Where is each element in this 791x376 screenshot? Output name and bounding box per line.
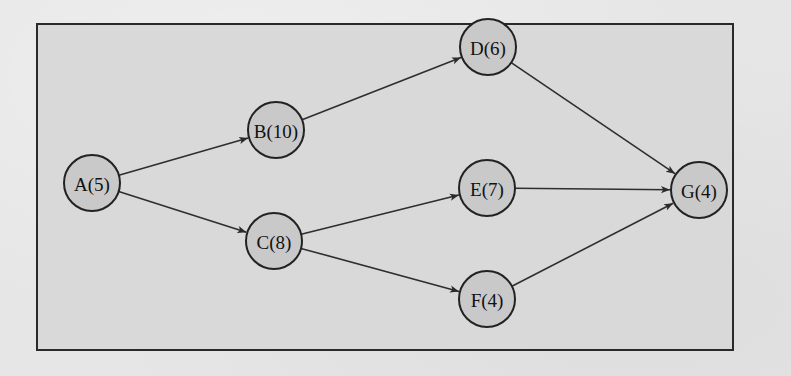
node-label: D(6) xyxy=(470,38,506,60)
activity-network-diagram: A(5)B(10)C(8)D(6)E(7)F(4)G(4) xyxy=(0,0,791,376)
node-g: G(4) xyxy=(671,162,727,218)
diagram-frame xyxy=(37,24,733,350)
node-label: F(4) xyxy=(471,290,504,312)
node-label: E(7) xyxy=(470,179,504,201)
node-e: E(7) xyxy=(459,160,515,216)
node-label: C(8) xyxy=(257,232,292,254)
scanned-page: A(5)B(10)C(8)D(6)E(7)F(4)G(4) xyxy=(0,0,791,376)
node-label: B(10) xyxy=(254,121,298,143)
node-d: D(6) xyxy=(460,19,516,75)
node-label: G(4) xyxy=(681,181,717,203)
node-label: A(5) xyxy=(74,174,110,196)
node-a: A(5) xyxy=(64,155,120,211)
node-f: F(4) xyxy=(459,271,515,327)
node-b: B(10) xyxy=(248,102,304,158)
node-c: C(8) xyxy=(246,213,302,269)
